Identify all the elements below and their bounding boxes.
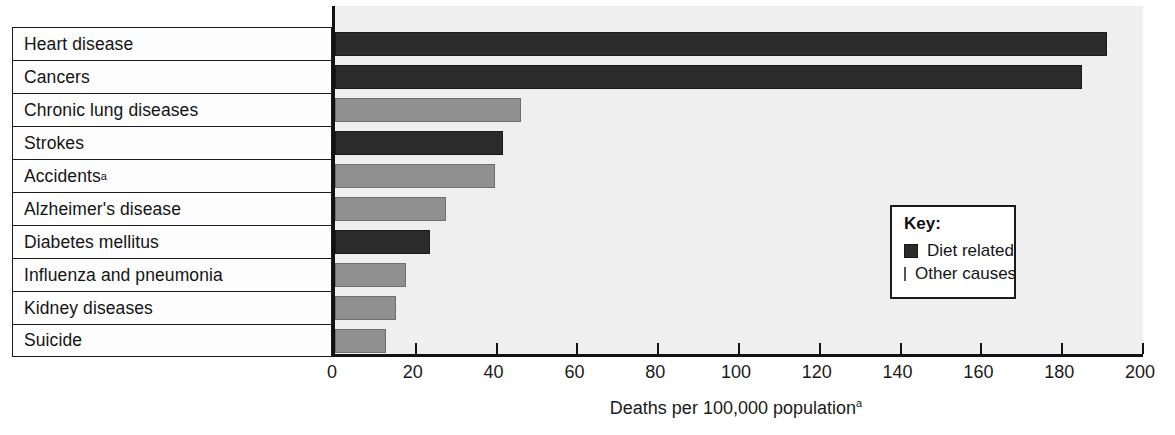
category-label-cell: Accidentsa	[12, 159, 332, 192]
x-axis-title-superscript: a	[856, 397, 862, 409]
category-label-cell: Kidney diseases	[12, 291, 332, 324]
x-axis-tick	[1142, 343, 1144, 354]
category-label-text: Influenza and pneumonia	[24, 265, 223, 286]
category-label-text: Diabetes mellitus	[24, 232, 159, 253]
x-axis-tick-label: 20	[403, 362, 423, 383]
x-axis-tick	[980, 343, 982, 354]
category-label-cell: Strokes	[12, 126, 332, 159]
x-axis-tick-label: 180	[1044, 362, 1074, 383]
bar	[335, 98, 521, 122]
bar	[335, 329, 386, 353]
bar	[335, 32, 1107, 56]
category-label-cell: Diabetes mellitus	[12, 225, 332, 258]
x-axis-tick-label: 140	[883, 362, 913, 383]
legend-swatch-icon	[904, 244, 918, 258]
bar-row	[335, 93, 521, 126]
category-label-text: Kidney diseases	[24, 298, 153, 319]
x-axis-tick-label: 200	[1125, 362, 1155, 383]
bar	[335, 263, 406, 287]
bar	[335, 296, 396, 320]
x-axis-tick-label: 0	[327, 362, 337, 383]
category-label-text: Strokes	[24, 133, 84, 154]
x-axis-title: Deaths per 100,000 populationa	[332, 398, 1140, 419]
x-axis-tick	[819, 343, 821, 354]
category-label-text: Alzheimer's disease	[24, 199, 181, 220]
bar-row	[335, 60, 1082, 93]
category-label-text: Suicide	[24, 330, 82, 351]
category-label-column: Heart diseaseCancersChronic lung disease…	[12, 27, 332, 357]
bar-row	[335, 291, 396, 324]
x-axis-tick	[576, 343, 578, 354]
bar-row	[335, 126, 503, 159]
bar-row	[335, 192, 446, 225]
x-axis-tick	[496, 343, 498, 354]
x-axis-tick	[1061, 343, 1063, 354]
legend-box: Key: Diet relatedOther causes	[890, 205, 1016, 299]
x-axis-tick-label: 40	[484, 362, 504, 383]
legend-label: Diet related	[927, 241, 1014, 261]
x-axis-tick	[657, 343, 659, 354]
bar-row	[335, 27, 1107, 60]
category-label-text: Accidents	[24, 166, 101, 187]
category-label-cell: Heart disease	[12, 27, 332, 60]
category-label-cell: Influenza and pneumonia	[12, 258, 332, 291]
x-axis-tick	[900, 343, 902, 354]
bar	[335, 230, 430, 254]
category-label-cell: Cancers	[12, 60, 332, 93]
category-label-text: Chronic lung diseases	[24, 100, 198, 121]
x-axis-tick-label: 160	[963, 362, 993, 383]
legend-label: Other causes	[915, 264, 1016, 284]
legend-swatch-icon	[904, 267, 906, 281]
x-axis-tick-label: 80	[645, 362, 665, 383]
x-axis-tick-label: 120	[802, 362, 832, 383]
x-axis-tick	[738, 343, 740, 354]
category-label-text: Cancers	[24, 67, 90, 88]
bar-row	[335, 225, 430, 258]
legend-items: Diet relatedOther causes	[904, 239, 1014, 285]
x-axis-title-text: Deaths per 100,000 population	[610, 398, 856, 418]
x-axis-tick-label: 60	[564, 362, 584, 383]
plot-area	[332, 6, 1143, 357]
bar-row	[335, 324, 386, 357]
bar	[335, 164, 495, 188]
category-label-cell: Alzheimer's disease	[12, 192, 332, 225]
bar	[335, 197, 446, 221]
category-label-text: Heart disease	[24, 34, 133, 55]
bars-layer	[335, 6, 1143, 354]
bar-chart-figure: Heart diseaseCancersChronic lung disease…	[0, 0, 1175, 435]
legend-item: Diet related	[904, 239, 1014, 262]
bar-row	[335, 159, 495, 192]
category-label-cell: Suicide	[12, 324, 332, 357]
bar	[335, 65, 1082, 89]
bar-row	[335, 258, 406, 291]
x-axis-tick	[415, 343, 417, 354]
bar	[335, 131, 503, 155]
legend-title: Key:	[904, 214, 1014, 234]
x-axis-tick-label: 100	[721, 362, 751, 383]
category-label-cell: Chronic lung diseases	[12, 93, 332, 126]
legend-item: Other causes	[904, 262, 1014, 285]
